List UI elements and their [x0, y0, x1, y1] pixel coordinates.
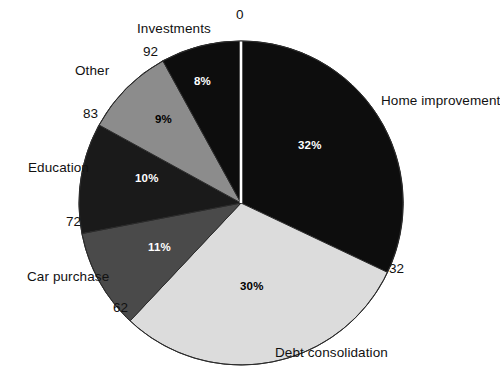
category-label-education: Education [28, 161, 89, 176]
value-label-home-improvement: 32% [298, 140, 322, 152]
value-label-other: 9% [155, 114, 172, 126]
tick-label-0: 0 [236, 8, 244, 23]
value-label-investments: 8% [194, 76, 211, 88]
tick-label-72: 72 [66, 215, 81, 230]
value-label-debt-consolidation: 30% [240, 281, 264, 293]
value-label-car-purchase: 11% [148, 242, 171, 254]
value-label-education: 10% [135, 173, 159, 185]
tick-label-62: 62 [113, 301, 128, 316]
tick-label-92: 92 [143, 45, 158, 60]
category-label-car-purchase: Car purchase [27, 270, 109, 285]
tick-label-32: 32 [389, 262, 404, 277]
category-label-other: Other [75, 64, 109, 79]
category-label-debt-consolidation: Debt consolidation [275, 346, 388, 361]
category-label-home-improvement: Home improvement [381, 94, 500, 109]
category-label-investments: Investments [137, 22, 211, 37]
tick-label-83: 83 [83, 107, 98, 122]
